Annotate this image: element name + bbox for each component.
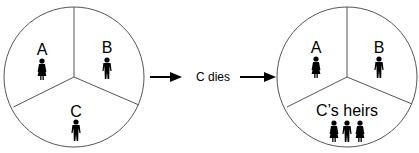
before-pie: A B C	[4, 7, 144, 147]
arrow-head-icon	[170, 72, 182, 82]
segment-label-heirs: C’s heirs	[316, 102, 378, 119]
arrow-head-icon	[264, 72, 276, 82]
segment-label-b: B	[102, 39, 113, 56]
after-pie: A B C’s heirs	[277, 7, 417, 147]
arrow-2	[240, 72, 276, 82]
segment-label-a: A	[37, 41, 48, 58]
segment-label-c: C	[70, 103, 82, 120]
arrow-1	[150, 72, 182, 82]
transition-label: C dies	[196, 70, 230, 84]
inheritance-diagram: A B C C dies A B C’s heirs	[0, 0, 419, 153]
segment-label-b: B	[374, 39, 385, 56]
segment-label-a: A	[311, 39, 322, 56]
